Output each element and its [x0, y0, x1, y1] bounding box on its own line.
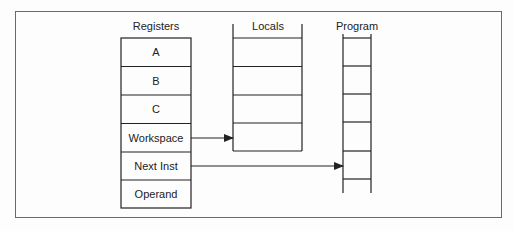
stack-diagram: Registers A B C Workspace Next Inst Oper…: [0, 0, 514, 231]
registers-column: Registers A B C Workspace Next Inst Oper…: [121, 20, 191, 208]
registers-title: Registers: [133, 20, 180, 32]
register-cell-workspace: Workspace: [129, 132, 184, 144]
register-cell-b: B: [152, 75, 159, 87]
register-cell-c: C: [152, 103, 160, 115]
locals-title: Locals: [252, 20, 284, 32]
program-title: Program: [336, 20, 378, 32]
register-cell-next-inst: Next Inst: [134, 160, 177, 172]
locals-column: Locals: [233, 20, 302, 151]
register-cell-a: A: [152, 46, 160, 58]
register-cell-operand: Operand: [135, 188, 178, 200]
program-column: Program: [336, 20, 378, 193]
